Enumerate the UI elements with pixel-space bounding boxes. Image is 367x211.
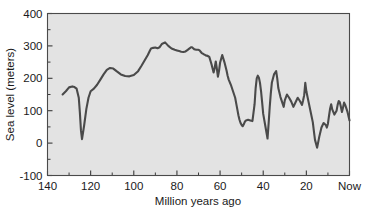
x-tick-label: 140 bbox=[38, 180, 57, 192]
y-tick-label: 300 bbox=[23, 40, 42, 52]
x-tick-label: 100 bbox=[124, 180, 143, 192]
sea-level-line-chart: -1000100200300400 14012010080604020Now S… bbox=[0, 0, 367, 211]
y-tick-label: 400 bbox=[23, 8, 42, 20]
x-tick-label: Now bbox=[338, 180, 362, 192]
y-axis-title: Sea level (meters) bbox=[4, 48, 16, 141]
chart-figure: -1000100200300400 14012010080604020Now S… bbox=[0, 0, 367, 211]
y-tick-label: 100 bbox=[23, 105, 42, 117]
x-tick-label: 20 bbox=[300, 180, 313, 192]
y-tick-label: 200 bbox=[23, 72, 42, 84]
x-axis-title: Million years ago bbox=[155, 195, 241, 207]
x-tick-label: 120 bbox=[81, 180, 100, 192]
x-tick-label: 60 bbox=[214, 180, 227, 192]
y-tick-label: 0 bbox=[36, 137, 42, 149]
x-tick-label: 80 bbox=[171, 180, 184, 192]
x-tick-label: 40 bbox=[257, 180, 270, 192]
